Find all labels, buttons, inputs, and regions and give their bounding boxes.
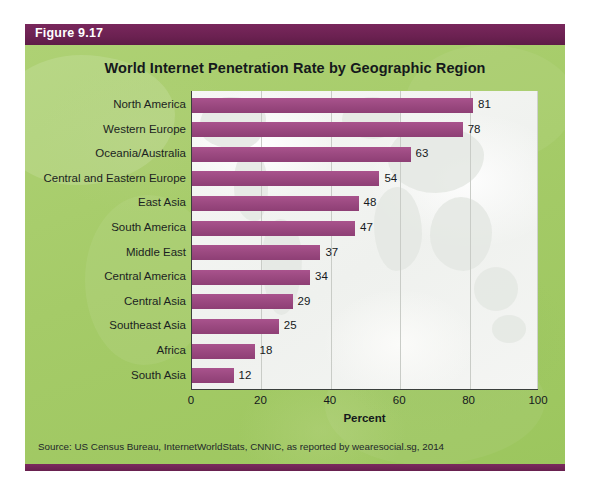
bar <box>192 344 255 359</box>
bar-value-label: 48 <box>364 196 377 208</box>
bar-value-label: 12 <box>239 369 252 381</box>
x-tick-label: 100 <box>528 394 547 406</box>
plot-right-edge <box>537 91 538 389</box>
category-label: Africa <box>25 344 186 356</box>
bar-value-label: 63 <box>416 147 429 159</box>
figure-label-bar <box>25 24 565 45</box>
bar <box>192 147 411 162</box>
category-label: Oceania/Australia <box>25 147 186 159</box>
x-tick-label: 0 <box>188 394 194 406</box>
chart-title: World Internet Penetration Rate by Geogr… <box>25 60 565 76</box>
category-label: East Asia <box>25 196 186 208</box>
bar <box>192 221 355 236</box>
gridline <box>470 91 471 389</box>
x-tick-label: 40 <box>323 394 336 406</box>
bar-value-label: 25 <box>284 319 297 331</box>
figure-label: Figure 9.17 <box>35 26 103 40</box>
category-label: Central America <box>25 270 186 282</box>
bar <box>192 122 463 137</box>
category-label: Central Asia <box>25 295 186 307</box>
category-label: South Asia <box>25 369 186 381</box>
map-watermark-shape <box>474 267 518 311</box>
map-watermark-shape <box>430 197 492 271</box>
bar-value-label: 78 <box>468 123 481 135</box>
x-axis-title: Percent <box>191 412 538 424</box>
bar <box>192 319 279 334</box>
source-note: Source: US Census Bureau, InternetWorldS… <box>38 441 444 452</box>
x-tick-label: 80 <box>462 394 475 406</box>
x-tick-label: 60 <box>393 394 406 406</box>
bar <box>192 270 310 285</box>
bar <box>192 245 320 260</box>
map-watermark-shape <box>374 187 422 271</box>
category-label: Western Europe <box>25 123 186 135</box>
bar <box>192 196 359 211</box>
map-watermark-shape <box>492 315 526 343</box>
category-label: North America <box>25 98 186 110</box>
bar-value-label: 34 <box>315 270 328 282</box>
bar-value-label: 29 <box>298 295 311 307</box>
category-label: South America <box>25 221 186 233</box>
category-label: Middle East <box>25 246 186 258</box>
bar <box>192 171 379 186</box>
plot-area <box>191 91 538 390</box>
bar <box>192 294 293 309</box>
bar-value-label: 18 <box>260 344 273 356</box>
bar-value-label: 37 <box>325 246 338 258</box>
bar <box>192 98 473 113</box>
bar-value-label: 81 <box>478 98 491 110</box>
figure-bottom-bar <box>25 464 565 471</box>
bar-value-label: 54 <box>384 172 397 184</box>
bar <box>192 368 234 383</box>
x-tick-label: 20 <box>254 394 267 406</box>
category-label: Southeast Asia <box>25 319 186 331</box>
bar-value-label: 47 <box>360 221 373 233</box>
category-label: Central and Eastern Europe <box>25 172 186 184</box>
figure-container: Figure 9.17 World Internet Penetration R… <box>0 0 589 491</box>
